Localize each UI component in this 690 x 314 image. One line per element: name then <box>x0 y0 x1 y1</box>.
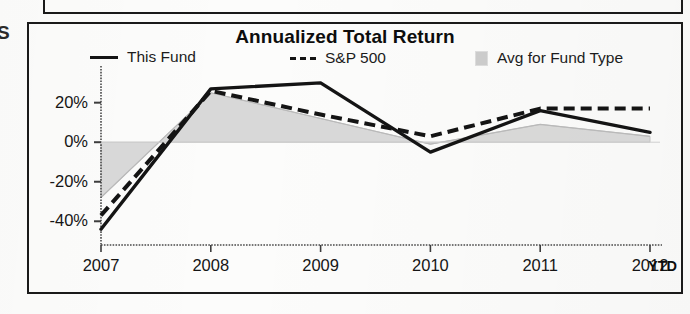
y-tick-label: 20% <box>26 93 88 112</box>
y-tick-label: -40% <box>26 211 88 230</box>
plot-area: 20%0%-20%-40% 200720082009201020112012 Y… <box>0 0 690 314</box>
y-tick-label: 0% <box>26 132 88 151</box>
x-tick-label: 2010 <box>402 256 458 275</box>
x-axis-ytd-note: YTD <box>648 258 688 274</box>
y-tick-label: -20% <box>26 172 88 191</box>
x-tick-label: 2007 <box>73 256 129 275</box>
x-tick-label: 2011 <box>512 256 568 275</box>
x-tick-label: 2008 <box>183 256 239 275</box>
x-axis-tick-labels: 200720082009201020112012 <box>0 256 690 280</box>
x-tick-label: 2009 <box>293 256 349 275</box>
